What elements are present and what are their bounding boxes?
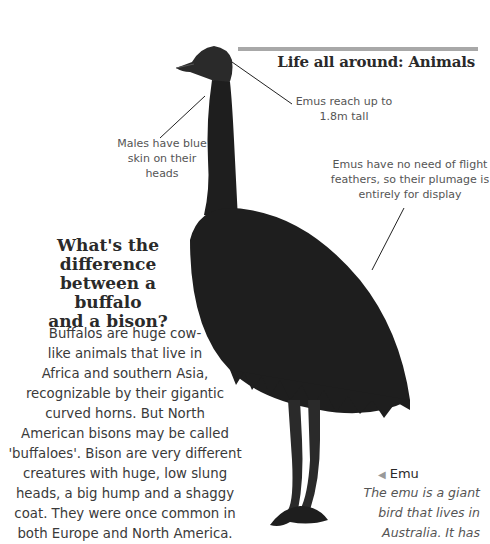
heading-line: What's the <box>28 236 188 255</box>
caption-line: The emu is a giant <box>330 483 480 503</box>
annotation-line: entirely for display <box>330 187 490 202</box>
annotation-blue-skin: Males have blue skin on their heads <box>112 136 212 181</box>
body-line: recognizable by their gigantic <box>0 384 250 404</box>
body-line: both Europe and North America. <box>0 524 250 544</box>
body-line: Africa and southern Asia, <box>0 364 250 384</box>
body-line: like animals that live in <box>0 344 250 364</box>
body-line: 'buffaloes'. Bison are very different <box>0 444 250 464</box>
caption-line: bird that lives in <box>330 503 480 523</box>
caption-title: ◀Emu <box>330 466 480 481</box>
left-triangle-icon: ◀ <box>378 469 386 480</box>
heading-line: between a buffalo <box>28 274 188 312</box>
annotation-line: skin on their <box>112 151 212 166</box>
annotation-line: 1.8m tall <box>284 109 404 124</box>
body-line: Buffalos are huge cow- <box>0 324 250 344</box>
question-heading: What's the difference between a buffalo … <box>28 236 188 331</box>
annotation-plumage: Emus have no need of flight feathers, so… <box>330 157 490 202</box>
caption-body: The emu is a giant bird that lives in Au… <box>330 483 480 543</box>
body-line: creatures with huge, low slung <box>0 464 250 484</box>
annotation-line: Males have blue <box>112 136 212 151</box>
annotation-line: heads <box>112 166 212 181</box>
body-line: heads, a big hump and a shaggy <box>0 484 250 504</box>
caption-title-text: Emu <box>390 466 419 481</box>
heading-line: difference <box>28 255 188 274</box>
annotation-line: Emus reach up to <box>284 94 404 109</box>
caption-line: Australia. It has <box>330 523 480 543</box>
annotation-height: Emus reach up to 1.8m tall <box>284 94 404 124</box>
question-body: Buffalos are huge cow- like animals that… <box>0 324 250 544</box>
annotation-line: Emus have no need of flight <box>330 157 490 172</box>
body-line: curved horns. But North <box>0 404 250 424</box>
body-line: coat. They were once common in <box>0 504 250 524</box>
body-line: American bisons may be called <box>0 424 250 444</box>
annotation-line: feathers, so their plumage is <box>330 172 490 187</box>
emu-caption: ◀Emu The emu is a giant bird that lives … <box>330 466 480 543</box>
